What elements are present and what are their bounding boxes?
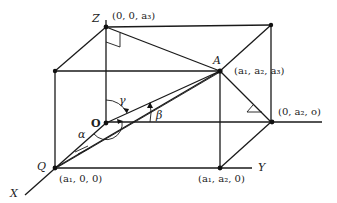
alpha-mark-near-q-2 [78, 148, 90, 154]
point-y [270, 120, 275, 125]
edge-z-to-left [55, 27, 106, 71]
point-xy [218, 166, 223, 171]
z-point-coords: (0, 0, a₃) [112, 10, 155, 21]
x-axis-label: X [9, 187, 19, 200]
point-A [217, 68, 222, 73]
line-Q-to-A-inner [58, 72, 220, 167]
line-A-to-y [220, 71, 271, 122]
line-z-to-A [106, 27, 220, 71]
A-label: A [212, 54, 221, 67]
x-axis-line [25, 123, 106, 195]
point-origin [104, 121, 109, 126]
labels: Z (0, 0, a₃) A (a₁, a₂, a₃) O γ β α (0, … [9, 10, 321, 200]
direction-angles-diagram: Z (0, 0, a₃) A (a₁, a₂, a₃) O γ β α (0, … [0, 0, 337, 203]
point-left [53, 69, 57, 73]
Q-coords: (a₁, 0, 0) [59, 173, 102, 184]
y-point-coords: (0, a₂, o) [278, 106, 321, 117]
point-z [104, 25, 109, 30]
y-axis-label: Y [258, 161, 267, 174]
alpha-label: α [78, 128, 86, 141]
z-axis-label: Z [91, 12, 100, 25]
beta-arrowhead [147, 102, 153, 108]
gamma-label: γ [119, 94, 126, 107]
edge-z-to-topright [106, 25, 271, 27]
point-Q [53, 166, 58, 171]
point-topright [269, 23, 273, 27]
origin-label: O [91, 117, 101, 130]
Q-label: Q [37, 160, 46, 173]
vector-lines [55, 27, 271, 168]
A-coords: (a₁, a₂, a₃) [234, 65, 285, 76]
beta-label: β [155, 109, 162, 122]
xy-point-coords: (a₁, a₂, 0) [198, 173, 245, 184]
angle-arcs [75, 100, 153, 154]
right-angle-mark-z [106, 33, 120, 47]
